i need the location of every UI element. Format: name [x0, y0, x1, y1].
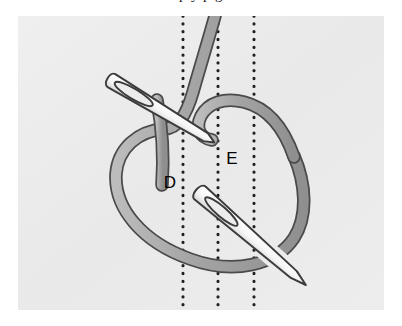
page-root: p y p g [0, 0, 402, 326]
label-e: E [226, 149, 237, 168]
stitch-diagram-illustration: D E [18, 16, 384, 310]
stitch-diagram-panel: D E [18, 16, 384, 310]
label-d: D [164, 173, 176, 192]
clipped-caption-text: p y p g [0, 0, 402, 4]
